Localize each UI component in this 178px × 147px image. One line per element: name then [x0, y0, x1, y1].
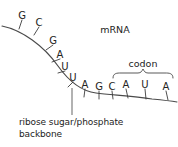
base-letter-11: U: [141, 79, 148, 90]
caption-line-2: backbone: [19, 129, 169, 141]
base-letter-5: U: [61, 61, 68, 72]
base-letter-4: A: [57, 49, 64, 60]
base-letter-3: G: [49, 35, 57, 46]
base-letter-1: G: [18, 10, 26, 21]
base-tick: [34, 27, 39, 35]
base-tick: [112, 91, 113, 99]
base-tick: [126, 89, 128, 98]
base-letters: G C G A U U A G C A U A: [18, 10, 169, 92]
base-letter-7: A: [82, 79, 89, 90]
codon-bracket: [113, 69, 173, 78]
base-letter-8: G: [95, 81, 103, 92]
base-letter-6: U: [69, 72, 76, 83]
base-letter-10: A: [123, 79, 130, 90]
base-letter-12: A: [163, 81, 170, 92]
backbone-caption: ribose sugar/phosphate backbone: [19, 117, 169, 140]
base-tick: [19, 20, 22, 29]
base-tick: [166, 91, 168, 100]
base-letter-9: C: [109, 81, 116, 92]
codon-label: codon: [129, 58, 158, 69]
base-letter-2: C: [36, 17, 43, 28]
caption-line-1: ribose sugar/phosphate: [19, 117, 169, 129]
mrna-label: mRNA: [100, 24, 130, 35]
mrna-diagram: G C G A U U A G C A U A mRNA codon ribos…: [0, 0, 178, 147]
